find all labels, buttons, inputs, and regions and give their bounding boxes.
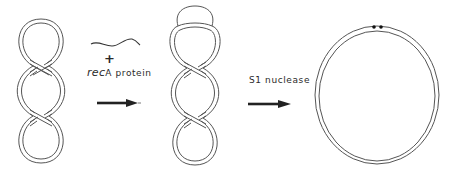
supercoil-crossings-left [30,60,52,126]
supercoiled-dna [17,19,65,163]
arrow-step1-icon [97,99,141,107]
s1-nuclease-label: S1 nuclease [249,75,310,85]
ssdna-wavy-line-icon [91,39,140,46]
diagram-svg [0,0,452,176]
nicked-relaxed-dna [315,26,439,164]
reca-protein-label: recA protein [87,66,152,79]
reca-rest: A protein [105,68,151,78]
plus-sign: + [104,52,115,65]
arrow-step2-icon [248,100,291,108]
diagram-canvas: + recA protein S1 nuclease [0,0,452,176]
reca-italic: rec [87,66,105,79]
d-loop-dna [170,6,220,165]
